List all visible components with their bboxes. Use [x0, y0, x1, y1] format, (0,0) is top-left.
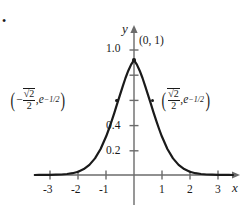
left-frac-denominator: 2	[23, 100, 35, 112]
left-open-paren: (	[10, 91, 15, 109]
annotation-right-inflection: ( √2 2 , e −1/2 )	[160, 88, 211, 112]
y-tick-label-0-4: 0.4	[106, 120, 120, 132]
right-frac-numerator: √2	[167, 88, 180, 100]
annotation-peak: (0, 1)	[139, 35, 164, 47]
point-marker-left-inflection	[115, 99, 119, 103]
x-tick-label-neg3: -3	[43, 184, 53, 196]
annotation-left-inflection: ( − √2 2 , e −1/2 )	[9, 88, 67, 112]
x-tick-label-neg2: -2	[71, 184, 81, 196]
y-tick-label-0-2: 0.2	[106, 145, 120, 157]
left-exponent: −1/2	[44, 96, 60, 104]
y-tick-label-1-0: 1.0	[106, 43, 120, 55]
y-axis-label: y	[122, 22, 128, 35]
left-fraction: √2 2	[23, 88, 35, 112]
left-frac-numerator: √2	[23, 88, 36, 100]
point-marker-peak	[132, 58, 136, 62]
right-fraction: √2 2	[168, 88, 180, 112]
x-tick-label-3: 3	[215, 184, 221, 196]
y-axis	[130, 25, 139, 205]
gaussian-curve-figure: •	[0, 0, 248, 220]
x-tick-label-1: 1	[159, 184, 165, 196]
x-tick-label-2: 2	[187, 184, 193, 196]
right-open-paren: (	[161, 91, 166, 109]
right-close-paren: )	[205, 91, 210, 109]
x-axis-label: x	[232, 181, 238, 194]
left-close-paren: )	[61, 91, 66, 109]
right-exponent: −1/2	[188, 96, 204, 104]
right-frac-denominator: 2	[168, 100, 180, 112]
x-tick-label-neg1: -1	[99, 184, 109, 196]
